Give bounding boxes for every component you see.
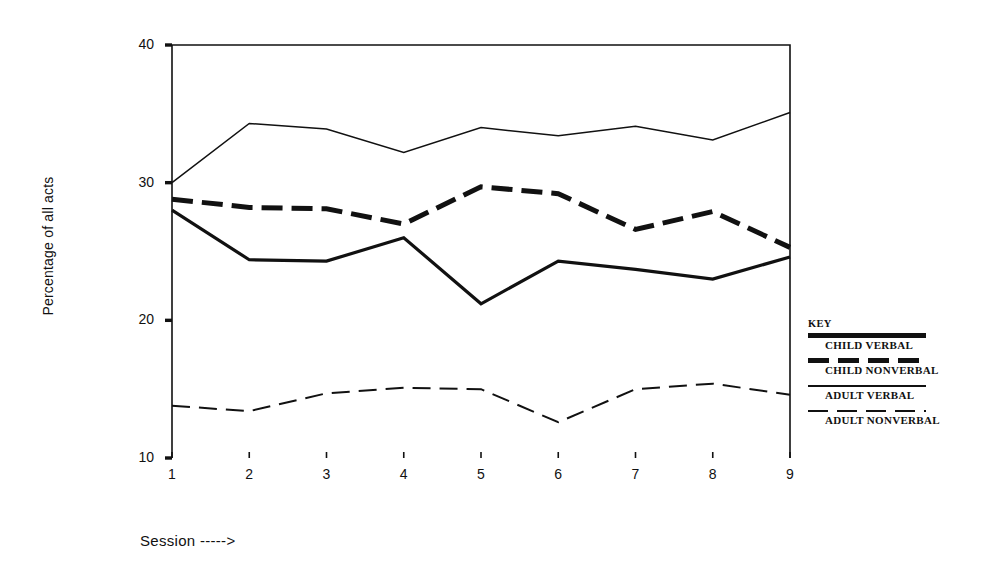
series-line: [172, 384, 790, 423]
axis-ticks: [165, 45, 790, 458]
series-line: [172, 187, 790, 248]
line-chart-figure: Percentage of all acts Session -----> 40…: [0, 0, 998, 585]
plot-area: [0, 0, 998, 585]
legend-entry-label: CHILD NONVERBAL: [825, 364, 939, 376]
plot-frame: [172, 45, 790, 458]
legend-line-swatch: [808, 385, 926, 387]
legend-entry: CHILD VERBAL: [800, 329, 996, 354]
series-line: [172, 112, 790, 182]
legend-entry-label: ADULT NONVERBAL: [825, 414, 940, 426]
series-line: [172, 210, 790, 304]
legend-entry-label: CHILD VERBAL: [825, 339, 913, 351]
legend-entry: ADULT NONVERBAL: [800, 404, 996, 429]
legend-title: KEY: [808, 318, 996, 329]
legend-line-swatch: [808, 333, 926, 338]
legend-line-swatch: [808, 410, 926, 412]
legend-line-swatch: [808, 358, 926, 363]
legend: KEY CHILD VERBALCHILD NONVERBALADULT VER…: [800, 318, 996, 429]
data-series-group: [172, 112, 790, 422]
legend-entry-label: ADULT VERBAL: [825, 389, 914, 401]
legend-entry: ADULT VERBAL: [800, 379, 996, 404]
legend-entry: CHILD NONVERBAL: [800, 354, 996, 379]
